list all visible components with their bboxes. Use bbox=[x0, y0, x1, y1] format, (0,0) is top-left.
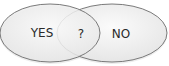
intersection-label: ? bbox=[78, 27, 84, 41]
right-set-label: NO bbox=[112, 27, 130, 41]
left-set-label: YES bbox=[30, 26, 54, 40]
venn-diagram: YES ? NO bbox=[0, 0, 169, 66]
